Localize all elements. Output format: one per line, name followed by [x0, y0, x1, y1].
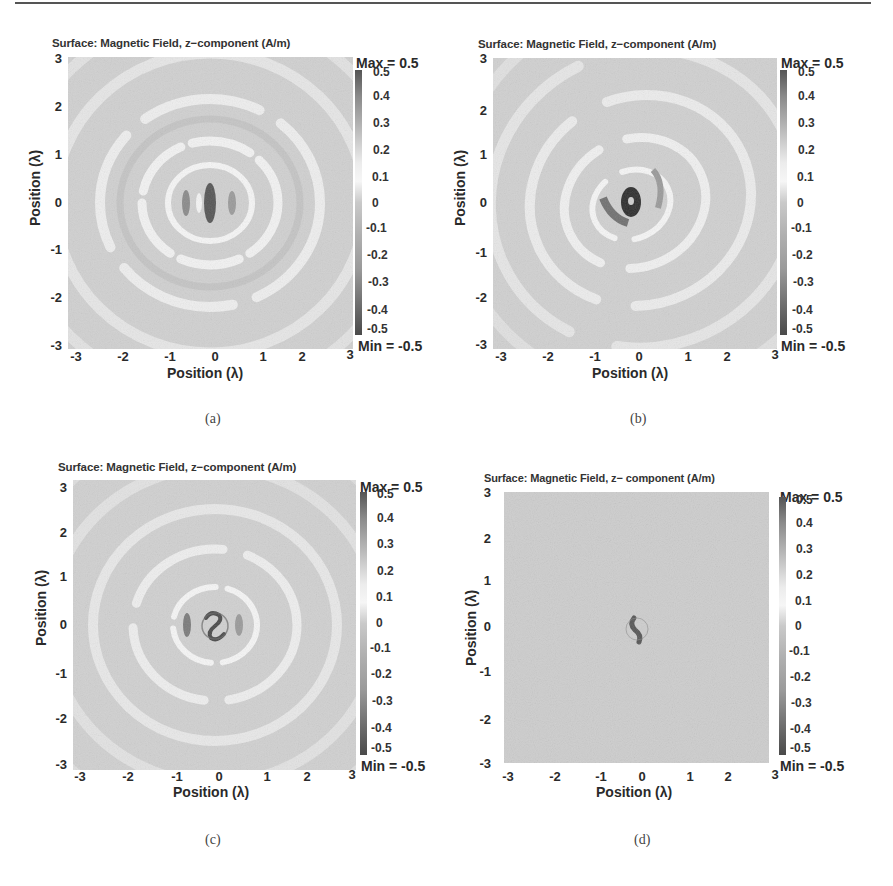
colorbar-tick: -0.3 [791, 697, 812, 709]
colorbar-tick: 0.2 [796, 569, 813, 581]
y-tick: -2 [40, 291, 62, 304]
colorbar-tick: -0.5 [371, 742, 392, 754]
x-tick: -3 [70, 770, 90, 783]
x-tick: -3 [66, 350, 86, 363]
x-tick: -1 [160, 350, 180, 363]
x-tick: 3 [340, 348, 360, 361]
y-tick: 0 [465, 196, 487, 209]
x-tick: -2 [545, 770, 565, 783]
y-tick: -3 [45, 758, 67, 771]
subfigure-caption: (b) [630, 411, 646, 427]
heatmap-plot [493, 58, 777, 349]
colorbar-tick: 0.4 [796, 517, 813, 529]
y-tick: 2 [40, 100, 62, 113]
colorbar-tick: -0.3 [372, 695, 393, 707]
colorbar-tick: -0.4 [792, 304, 813, 316]
panel-title: Surface: Magnetic Field, z−component (A/… [52, 37, 290, 49]
x-axis-label: Position (λ) [173, 784, 249, 800]
x-tick: 0 [632, 770, 652, 783]
colorbar-tick: 0.5 [798, 66, 815, 78]
x-axis-label: Position (λ) [167, 365, 243, 381]
y-tick: 2 [469, 532, 491, 545]
y-tick: 3 [40, 52, 62, 65]
colorbar-tick: 0 [797, 197, 804, 209]
colorbar-tick: 0.3 [796, 543, 813, 555]
y-axis-label: Position (λ) [27, 150, 43, 226]
colorbar-tick: -0.3 [793, 276, 814, 288]
colorbar-tick: -0.1 [791, 222, 812, 234]
colorbar-tick: -0.4 [367, 304, 388, 316]
colorbar-tick: -0.1 [370, 642, 391, 654]
colorbar-tick: -0.1 [789, 645, 810, 657]
colorbar-tick: -0.2 [371, 668, 392, 680]
y-tick: 1 [465, 148, 487, 161]
colorbar-tick: -0.3 [368, 276, 389, 288]
colorbar-tick: 0.5 [373, 66, 390, 78]
heatmap-plot [504, 492, 769, 763]
y-tick: -2 [465, 291, 487, 304]
y-axis-label: Position (λ) [33, 570, 49, 646]
colorbar-tick: 0.4 [373, 90, 390, 102]
colorbar-min-label: Min = -0.5 [358, 339, 422, 353]
y-axis-label: Position (λ) [452, 150, 468, 226]
colorbar-tick: -0.2 [790, 671, 811, 683]
colorbar-tick: 0.2 [373, 144, 390, 156]
colorbar-tick: -0.2 [367, 249, 388, 261]
panel-title: Surface: Magnetic Field, z−component (A/… [58, 461, 296, 473]
colorbar-tick: 0.1 [795, 595, 812, 607]
panel-title: Surface: Magnetic Field, z−component (A/… [478, 38, 716, 50]
colorbar-tick: -0.5 [792, 323, 813, 335]
colorbar-tick: 0.1 [376, 591, 393, 603]
top-rule [15, 2, 871, 4]
colorbar-tick: 0.4 [798, 90, 815, 102]
y-tick: 3 [45, 481, 67, 494]
x-axis-label: Position (λ) [596, 784, 672, 800]
y-tick: -3 [469, 757, 491, 770]
colorbar-tick: 0.5 [377, 488, 394, 500]
y-tick: -1 [40, 243, 62, 256]
x-tick: -2 [538, 350, 558, 363]
x-tick: -3 [491, 350, 511, 363]
y-tick: -2 [45, 712, 67, 725]
y-tick: 0 [40, 196, 62, 209]
colorbar-tick: 0.4 [377, 512, 394, 524]
colorbar [360, 492, 367, 755]
colorbar-tick: -0.2 [792, 249, 813, 261]
y-tick: 3 [465, 52, 487, 65]
y-tick: 1 [469, 574, 491, 587]
colorbar-tick: -0.5 [367, 323, 388, 335]
y-axis-label: Position (λ) [463, 590, 479, 666]
x-tick: 0 [629, 350, 649, 363]
colorbar-min-label: Min = -0.5 [780, 759, 844, 773]
y-tick: -3 [40, 339, 62, 352]
colorbar-tick: 0 [795, 620, 802, 632]
colorbar-tick: 0 [376, 617, 383, 629]
colorbar-tick: 0.1 [372, 171, 389, 183]
colorbar-tick: 0.3 [798, 117, 815, 129]
x-tick: -1 [585, 350, 605, 363]
colorbar-tick: 0.3 [377, 538, 394, 550]
x-tick: -2 [118, 770, 138, 783]
subfigure-caption: (a) [205, 411, 221, 427]
y-tick: -1 [45, 667, 67, 680]
colorbar-tick: 0.2 [377, 565, 394, 577]
y-tick: -3 [465, 338, 487, 351]
heatmap-plot [73, 480, 356, 770]
x-tick: 1 [678, 350, 698, 363]
x-tick: 2 [718, 770, 738, 783]
heatmap-plot [68, 57, 353, 349]
y-tick: 3 [469, 486, 491, 499]
subfigure-caption: (d) [634, 832, 650, 848]
x-tick: 3 [342, 768, 362, 781]
x-axis-label: Position (λ) [592, 365, 668, 381]
colorbar-tick: 0.2 [798, 144, 815, 156]
colorbar-tick: 0.1 [797, 171, 814, 183]
x-tick: 2 [297, 770, 317, 783]
x-tick: 2 [292, 350, 312, 363]
y-tick: 2 [465, 104, 487, 117]
colorbar-tick: -0.4 [790, 723, 811, 735]
panel-title: Surface: Magnetic Field, z− component (A… [484, 472, 715, 484]
x-tick: 0 [205, 350, 225, 363]
x-tick: -1 [591, 770, 611, 783]
x-tick: -3 [498, 770, 518, 783]
